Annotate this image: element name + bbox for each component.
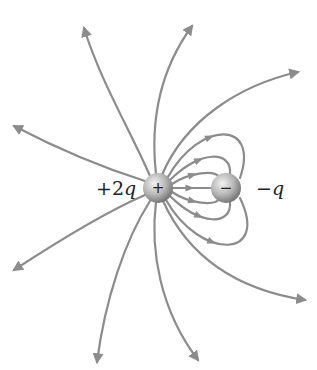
negative-charge-variable: q [272, 177, 284, 199]
negative-charge: − [211, 173, 241, 203]
outer-field-line [14, 126, 145, 181]
field-line-diagram: + − +2q −q [0, 0, 317, 370]
positive-charge-variable: q [124, 177, 136, 199]
arrowhead-icon [206, 237, 217, 247]
arrowhead-icon [193, 155, 204, 165]
arrowhead-icon [204, 132, 215, 142]
arrowhead-icon [185, 185, 194, 192]
inner-field-line [166, 198, 247, 245]
negative-charge-sign: − [256, 177, 272, 199]
arrowhead-icon [193, 211, 204, 221]
plus-sign-icon: + [152, 179, 165, 197]
outer-field-line [84, 28, 150, 176]
positive-charge: + [143, 173, 173, 203]
positive-charge-label: +2q [96, 177, 136, 199]
positive-charge-coefficient: +2 [96, 177, 124, 199]
outer-field-line [97, 201, 150, 362]
outer-field-line [14, 195, 145, 270]
outer-field-line [162, 72, 298, 175]
minus-sign-icon: − [220, 179, 233, 197]
outer-field-line [163, 201, 305, 300]
negative-charge-label: −q [256, 177, 284, 199]
